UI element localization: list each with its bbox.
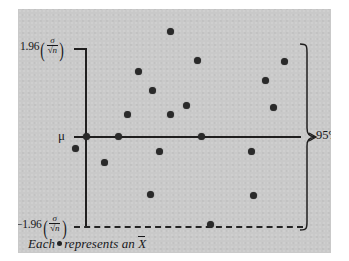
caption-prefix: Each <box>28 236 55 251</box>
upper-bound-tick <box>74 48 86 50</box>
mu-axis-label: μ <box>58 129 65 142</box>
caption-suffix: represents an <box>64 236 135 251</box>
data-point <box>156 148 163 155</box>
data-point <box>115 133 122 140</box>
paren-open: ( <box>41 39 45 61</box>
mu-symbol: μ <box>58 128 65 143</box>
data-point <box>101 159 108 166</box>
data-point <box>167 28 174 35</box>
data-point <box>281 58 288 65</box>
data-point <box>250 192 257 199</box>
data-point <box>135 68 142 75</box>
confidence-level-value: 95% <box>316 128 331 142</box>
sigma-symbol: σ <box>49 214 60 223</box>
data-point <box>72 145 79 152</box>
sigma-over-sqrt-n: σ√n <box>46 36 58 56</box>
scatter-plot: 1.96(σ√n) μ −1.96(σ√n) 95% Eachrepresent… <box>18 9 331 253</box>
sigma-over-sqrt-n: σ√n <box>49 214 61 234</box>
data-point <box>248 148 255 155</box>
upper-bound-coefficient: 1.96 <box>20 40 39 52</box>
confidence-level-label: 95% <box>316 129 331 142</box>
data-point <box>183 102 190 109</box>
confidence-brace <box>296 42 318 232</box>
mu-axis-line <box>74 136 301 138</box>
figure-panel: 1.96(σ√n) μ −1.96(σ√n) 95% Eachrepresent… <box>18 9 331 253</box>
figure-container: 1.96(σ√n) μ −1.96(σ√n) 95% Eachrepresent… <box>0 0 349 261</box>
data-point <box>270 104 277 111</box>
x-bar-statistic: X <box>138 236 146 250</box>
lower-bound-label: −1.96(σ√n) <box>18 214 68 238</box>
data-point <box>207 221 214 228</box>
sigma-symbol: σ <box>47 36 58 45</box>
sqrt-n: √n <box>47 45 58 55</box>
data-point <box>147 191 154 198</box>
sqrt-n: √n <box>49 223 60 233</box>
lower-bound-coefficient: −1.96 <box>18 218 42 230</box>
paren-close: ) <box>60 39 64 61</box>
lower-bound-dashed-line <box>74 226 303 228</box>
data-point <box>83 133 90 140</box>
data-point <box>194 57 201 64</box>
data-point <box>149 87 156 94</box>
upper-bound-label: 1.96(σ√n) <box>20 36 65 60</box>
caption-dot-marker <box>57 241 62 246</box>
data-point <box>262 77 269 84</box>
data-point <box>124 111 131 118</box>
data-point <box>167 111 174 118</box>
figure-caption: Eachrepresents an X <box>28 236 146 250</box>
data-point <box>198 133 205 140</box>
